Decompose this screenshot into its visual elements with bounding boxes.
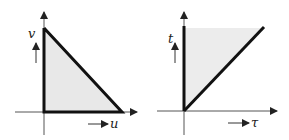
diagram-canvas: v u t τ [0,0,289,140]
v-axis-label: v [28,26,36,41]
tau-t-panel: t τ [157,12,277,135]
tau-axis-label: τ [251,115,259,130]
u-axis-label: u [110,116,118,131]
uv-panel: v u [15,12,137,135]
t-axis-label: t [168,31,174,46]
